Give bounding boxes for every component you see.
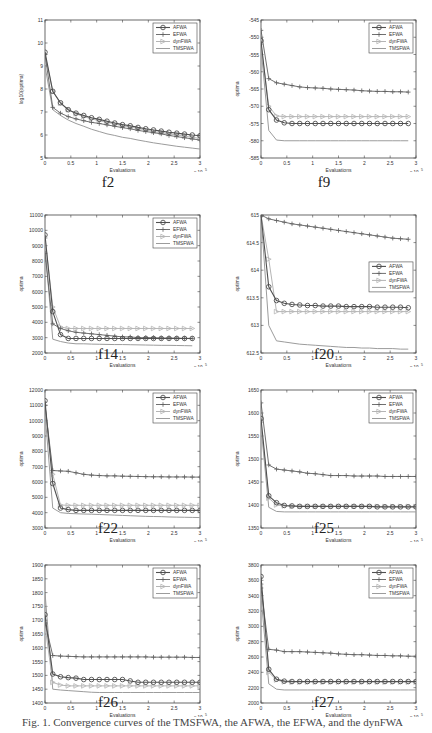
svg-text:5000: 5000	[32, 494, 43, 500]
svg-text:3200: 3200	[248, 608, 259, 614]
svg-text:2.5: 2.5	[387, 160, 394, 166]
svg-text:2600: 2600	[248, 654, 259, 660]
svg-text:0.5: 0.5	[67, 160, 74, 166]
chart-f9: -585-580-575-570-565-560-555-550-54500.5…	[216, 0, 432, 172]
svg-text:EFWA: EFWA	[389, 32, 403, 37]
svg-text:8000: 8000	[32, 448, 43, 454]
svg-text:3800: 3800	[248, 562, 259, 568]
svg-text:TMSFWA: TMSFWA	[173, 241, 194, 246]
svg-text:6000: 6000	[32, 479, 43, 485]
svg-text:2200: 2200	[248, 685, 259, 691]
svg-text:9000: 9000	[32, 243, 43, 249]
svg-text:7: 7	[40, 109, 43, 115]
chart-svg: 3000400050006000700080009000100001100012…	[0, 370, 216, 542]
svg-text:2: 2	[363, 160, 366, 166]
svg-text:0: 0	[260, 160, 263, 166]
svg-text:11000: 11000	[29, 402, 43, 408]
svg-text:5: 5	[205, 363, 207, 367]
chart-f27: 2000220024002600280030003200340036003800…	[216, 545, 432, 717]
svg-text:1750: 1750	[32, 603, 43, 609]
svg-text:optima: optima	[234, 626, 240, 641]
legend: AFWAEFWAdynFWATMSFWA	[153, 23, 197, 53]
legend: AFWAEFWAdynFWATMSFWA	[153, 218, 197, 248]
svg-text:EFWA: EFWA	[173, 32, 187, 37]
svg-text:TMSFWA: TMSFWA	[389, 46, 410, 51]
svg-text:614.5: 614.5	[246, 240, 259, 246]
svg-text:EFWA: EFWA	[389, 577, 403, 582]
svg-text:optima: optima	[234, 451, 240, 466]
svg-text:-555: -555	[249, 52, 259, 58]
svg-text:TMSFWA: TMSFWA	[173, 46, 194, 51]
svg-text:1450: 1450	[32, 686, 43, 692]
svg-text:-585: -585	[249, 155, 259, 161]
caption-f22: f22	[0, 520, 216, 537]
figure-caption: Fig. 1. Convergence curves of the TMSFWA…	[22, 716, 403, 728]
svg-text:3000: 3000	[248, 623, 259, 629]
svg-text:1900: 1900	[32, 562, 43, 568]
caption-f26: f26	[0, 694, 216, 711]
svg-text:EFWA: EFWA	[173, 402, 187, 407]
svg-text:4000: 4000	[32, 319, 43, 325]
caption-f2: f2	[0, 174, 216, 191]
svg-text:TMSFWA: TMSFWA	[389, 285, 410, 290]
svg-text:TMSFWA: TMSFWA	[389, 416, 410, 421]
svg-text:EFWA: EFWA	[173, 227, 187, 232]
svg-text:optima: optima	[234, 81, 240, 96]
svg-text:1: 1	[311, 160, 314, 166]
chart-f22: 3000400050006000700080009000100001100012…	[0, 370, 216, 542]
svg-text:Evaluations: Evaluations	[326, 167, 352, 172]
svg-text:AFWA: AFWA	[173, 25, 187, 30]
svg-text:AFWA: AFWA	[389, 25, 403, 30]
chart-svg: 2000220024002600280030003200340036003800…	[216, 545, 432, 717]
svg-text:Evaluations: Evaluations	[110, 167, 136, 172]
svg-text:0.5: 0.5	[283, 160, 290, 166]
svg-text:1550: 1550	[248, 433, 259, 439]
svg-text:x 10: x 10	[410, 715, 419, 717]
svg-text:1800: 1800	[32, 590, 43, 596]
chart-svg: 1400145015001550160016501700175018001850…	[0, 545, 216, 717]
caption-f20: f20	[216, 346, 432, 363]
legend: AFWAEFWAdynFWATMSFWA	[369, 393, 413, 423]
svg-text:-580: -580	[249, 138, 259, 144]
svg-text:1.5: 1.5	[119, 160, 126, 166]
svg-text:1500: 1500	[32, 672, 43, 678]
svg-text:Evaluations: Evaluations	[326, 537, 352, 542]
svg-text:1650: 1650	[248, 387, 259, 393]
svg-text:-545: -545	[249, 17, 259, 23]
svg-text:dynFWA: dynFWA	[173, 234, 192, 239]
svg-text:Evaluations: Evaluations	[110, 537, 136, 542]
svg-text:1550: 1550	[32, 659, 43, 665]
svg-text:x 10: x 10	[194, 365, 203, 367]
svg-text:3000: 3000	[32, 335, 43, 341]
svg-text:5: 5	[421, 538, 423, 542]
svg-text:12000: 12000	[29, 387, 43, 393]
legend: AFWAEFWAdynFWATMSFWA	[369, 568, 413, 598]
svg-text:AFWA: AFWA	[389, 395, 403, 400]
svg-text:3: 3	[199, 160, 202, 166]
svg-text:AFWA: AFWA	[173, 570, 187, 575]
svg-text:1600: 1600	[32, 645, 43, 651]
svg-text:1400: 1400	[248, 502, 259, 508]
chart-f20: 612.5613613.5614614.561500.511.522.53Eva…	[216, 195, 432, 367]
svg-text:7000: 7000	[32, 273, 43, 279]
caption-f14: f14	[0, 346, 216, 363]
svg-text:dynFWA: dynFWA	[389, 584, 408, 589]
svg-text:10: 10	[37, 40, 43, 46]
svg-text:4000: 4000	[32, 510, 43, 516]
svg-text:3: 3	[415, 160, 418, 166]
svg-text:10000: 10000	[29, 418, 43, 424]
svg-text:1650: 1650	[32, 631, 43, 637]
svg-text:5: 5	[421, 168, 423, 172]
svg-text:0: 0	[44, 160, 47, 166]
legend: AFWAEFWAdynFWATMSFWA	[369, 262, 413, 292]
svg-text:x 10: x 10	[410, 540, 419, 542]
chart-f25: 135014001450150015501600165000.511.522.5…	[216, 370, 432, 542]
svg-text:5000: 5000	[32, 304, 43, 310]
svg-text:613.5: 613.5	[246, 295, 259, 301]
svg-text:log10(optima): log10(optima)	[18, 73, 24, 104]
svg-text:optima: optima	[234, 276, 240, 291]
svg-text:dynFWA: dynFWA	[389, 39, 408, 44]
svg-text:x 10: x 10	[194, 170, 203, 172]
chart-f26: 1400145015001550160016501700175018001850…	[0, 545, 216, 717]
svg-text:AFWA: AFWA	[173, 395, 187, 400]
